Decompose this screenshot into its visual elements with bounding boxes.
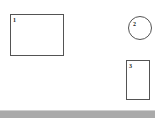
shape-label-3: 3 xyxy=(129,63,132,69)
horizontal-scrollbar[interactable] xyxy=(0,110,155,118)
shape-label-1: 1 xyxy=(13,17,16,23)
shape-label-2: 2 xyxy=(133,21,136,27)
shape-rectangle-1[interactable]: 1 xyxy=(10,14,64,56)
diagram-canvas[interactable]: 1 2 3 xyxy=(0,0,163,122)
shape-circle-2[interactable]: 2 xyxy=(128,16,152,40)
shape-rectangle-3[interactable]: 3 xyxy=(126,60,150,100)
